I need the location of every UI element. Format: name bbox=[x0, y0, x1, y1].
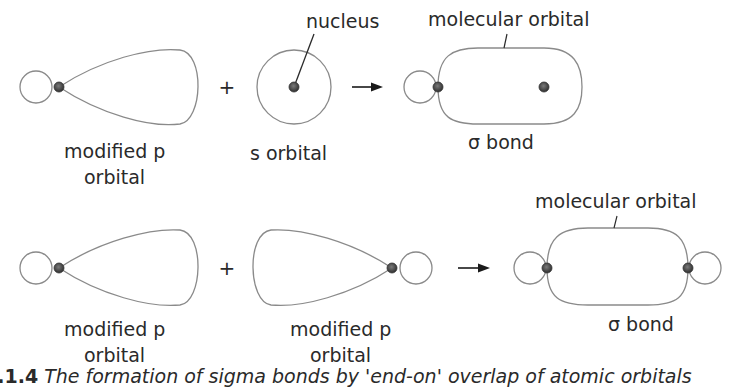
nucleus-dot-right bbox=[539, 82, 549, 92]
row1-s-orbital bbox=[257, 34, 331, 124]
row2-modified-p-orbital-left bbox=[20, 230, 198, 306]
modified-p-label-2a-line1: modified p bbox=[64, 318, 165, 340]
reaction-arrow-2 bbox=[458, 264, 490, 273]
small-lobe bbox=[404, 71, 436, 103]
figure-caption: 2.1.4 The formation of sigma bonds by 'e… bbox=[0, 365, 692, 387]
row1-molecular-orbital bbox=[404, 34, 582, 124]
sigma-bond-shape bbox=[438, 48, 582, 124]
molecular-orbital-leader bbox=[504, 34, 507, 48]
nucleus-dot-left bbox=[433, 82, 443, 92]
molecular-orbital-label-2: molecular orbital bbox=[535, 190, 697, 212]
nucleus-dot bbox=[387, 263, 397, 273]
large-lobe bbox=[59, 50, 198, 125]
row1-modified-p-orbital bbox=[20, 50, 198, 125]
small-lobe-right bbox=[689, 252, 721, 284]
figure-caption-text: The formation of sigma bonds by 'end-on'… bbox=[44, 365, 692, 387]
nucleus-dot-left bbox=[542, 263, 552, 273]
large-lobe bbox=[59, 230, 198, 306]
small-lobe bbox=[400, 252, 432, 284]
small-lobe bbox=[20, 71, 52, 103]
nucleus-dot bbox=[54, 82, 64, 92]
s-orbital-label: s orbital bbox=[250, 142, 327, 164]
plus-sign-2: + bbox=[219, 256, 236, 280]
sigma-bond-label-2: σ bond bbox=[608, 313, 674, 335]
modified-p-label-2a-line2: orbital bbox=[84, 344, 145, 366]
nucleus-leader-line bbox=[294, 34, 314, 87]
small-lobe-left bbox=[514, 252, 546, 284]
nucleus-dot bbox=[289, 82, 299, 92]
modified-p-label-1a-line1: modified p bbox=[64, 140, 165, 162]
modified-p-label-2b-line1: modified p bbox=[290, 318, 391, 340]
row2-molecular-orbital bbox=[514, 216, 721, 305]
modified-p-label-1a-line2: orbital bbox=[84, 166, 145, 188]
large-lobe bbox=[253, 230, 392, 306]
sigma-bond-label-1: σ bond bbox=[468, 131, 534, 153]
sigma-bond-shape bbox=[547, 228, 688, 305]
nucleus-dot bbox=[54, 263, 64, 273]
figure-number: 2.1.4 bbox=[0, 365, 38, 387]
plus-sign-1: + bbox=[219, 75, 236, 99]
nucleus-dot-right bbox=[683, 263, 693, 273]
molecular-orbital-leader bbox=[614, 216, 617, 228]
nucleus-label: nucleus bbox=[306, 10, 379, 32]
modified-p-label-2b-line2: orbital bbox=[310, 344, 371, 366]
small-lobe bbox=[20, 252, 52, 284]
reaction-arrow-1 bbox=[352, 83, 383, 92]
molecular-orbital-label-1: molecular orbital bbox=[428, 8, 590, 30]
row2-modified-p-orbital-right bbox=[253, 230, 432, 306]
